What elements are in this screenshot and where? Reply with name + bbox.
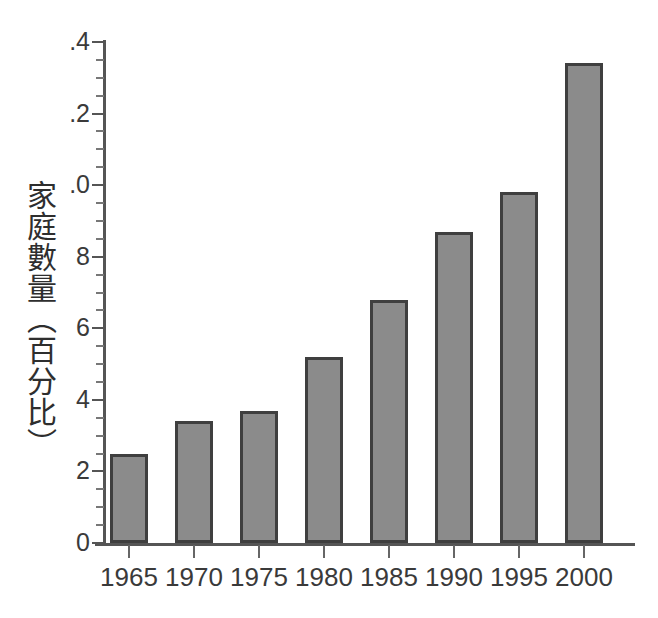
y-tick-label-text: 0 [32, 530, 90, 555]
y-tick-label-text: 4 [32, 387, 90, 412]
y-minor-tick-mark [96, 238, 104, 240]
y-tick-mark [92, 113, 104, 115]
x-tick-mark [453, 545, 455, 558]
y-tick-label-text: 2 [32, 458, 90, 483]
x-tick-label: 2000 [544, 562, 624, 592]
y-tick-label-text: .2 [32, 101, 90, 126]
bar [240, 411, 278, 543]
y-minor-tick-mark [96, 166, 104, 168]
bar [305, 357, 343, 543]
y-tick-label: 2 [28, 458, 90, 483]
y-minor-tick-mark [96, 274, 104, 276]
bar [565, 63, 603, 543]
y-minor-tick-mark [96, 202, 104, 204]
y-tick-mark [92, 256, 104, 258]
bar-chart-figure: 家庭數量（百分比） 02468.0.2.4 196519701975198019… [0, 0, 658, 618]
x-axis-line [95, 543, 635, 546]
y-minor-tick-mark [96, 506, 104, 508]
y-tick-label-text: 6 [32, 315, 90, 340]
plot-area: 家庭數量（百分比） 02468.0.2.4 196519701975198019… [0, 0, 658, 618]
y-tick-mark [92, 41, 104, 43]
bar [175, 421, 213, 543]
y-minor-tick-mark [96, 435, 104, 437]
x-tick-mark [323, 545, 325, 558]
y-tick-label: 8 [28, 244, 90, 269]
y-tick-mark [92, 470, 104, 472]
y-tick-label-text: 8 [32, 244, 90, 269]
y-tick-label: .2 [28, 101, 90, 126]
x-tick-mark [258, 545, 260, 558]
bar [435, 232, 473, 543]
y-minor-tick-mark [96, 381, 104, 383]
y-tick-mark [92, 184, 104, 186]
y-minor-tick-mark [96, 77, 104, 79]
bar [110, 454, 148, 543]
y-minor-tick-mark [96, 292, 104, 294]
y-tick-label: 4 [28, 387, 90, 412]
y-tick-mark [92, 542, 104, 544]
y-tick-label-text: .0 [32, 172, 90, 197]
y-minor-tick-mark [96, 488, 104, 490]
bar [370, 300, 408, 543]
bar [500, 192, 538, 543]
y-tick-label-text: .4 [32, 29, 90, 54]
y-minor-tick-mark [96, 130, 104, 132]
y-minor-tick-mark [96, 417, 104, 419]
y-tick-label: 6 [28, 315, 90, 340]
y-minor-tick-mark [96, 345, 104, 347]
x-tick-mark [518, 545, 520, 558]
x-tick-mark [388, 545, 390, 558]
y-tick-label: .4 [28, 29, 90, 54]
y-minor-tick-mark [96, 59, 104, 61]
y-minor-tick-mark [96, 309, 104, 311]
y-minor-tick-mark [96, 524, 104, 526]
y-tick-label: .0 [28, 172, 90, 197]
y-tick-mark [92, 399, 104, 401]
y-tick-label: 0 [28, 530, 90, 555]
x-tick-mark [193, 545, 195, 558]
y-tick-mark [92, 327, 104, 329]
y-minor-tick-mark [96, 220, 104, 222]
y-minor-tick-mark [96, 95, 104, 97]
y-minor-tick-mark [96, 363, 104, 365]
y-minor-tick-mark [96, 148, 104, 150]
x-tick-mark [583, 545, 585, 558]
y-minor-tick-mark [96, 453, 104, 455]
x-tick-mark [128, 545, 130, 558]
